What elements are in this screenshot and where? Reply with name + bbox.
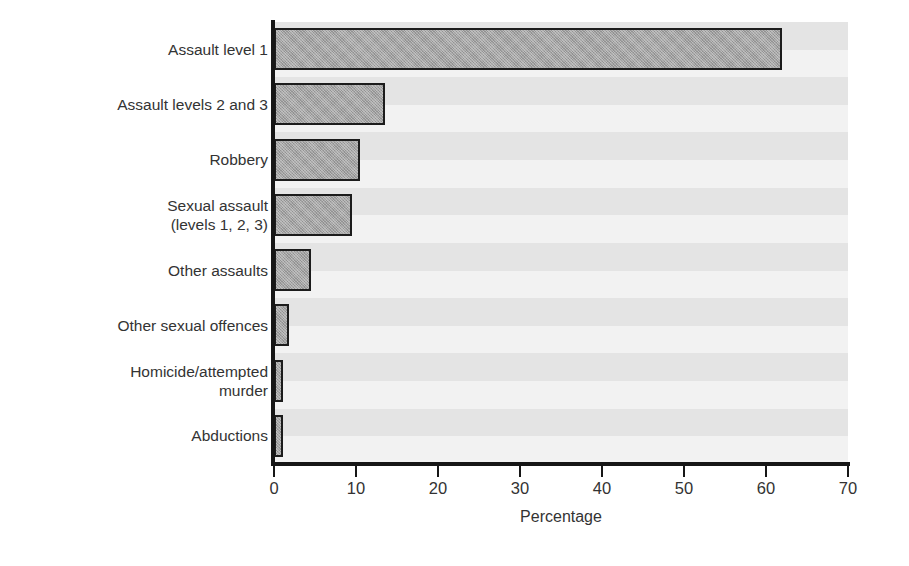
- bar-other-sexual-offences: [274, 304, 289, 346]
- y-axis-spine: [271, 20, 275, 466]
- y-axis-label: Homicide/attempted murder: [6, 362, 268, 400]
- bar-row: [274, 409, 848, 464]
- y-axis-label: Assault levels 2 and 3: [6, 95, 268, 114]
- y-axis-label: Abductions: [6, 426, 268, 445]
- y-axis-label: Other sexual offences: [6, 316, 268, 335]
- bar-chart-figure: Assault level 1 Assault levels 2 and 3 R…: [0, 0, 909, 566]
- x-axis-tick-mark: [355, 466, 358, 477]
- x-axis-tick-mark: [437, 466, 440, 477]
- x-axis-tick-mark: [683, 466, 686, 477]
- plot-area: [274, 22, 848, 464]
- x-axis-tick-mark: [847, 466, 850, 477]
- x-axis-tick-mark: [273, 466, 276, 477]
- x-axis-tick-label: 10: [347, 478, 365, 498]
- bar-abductions: [274, 415, 283, 457]
- x-axis-title: Percentage: [274, 508, 848, 526]
- bar-assault-levels-2-and-3: [274, 83, 385, 125]
- bar-robbery: [274, 139, 360, 181]
- x-axis-tick-label: 70: [839, 478, 857, 498]
- x-axis-tick-mark: [765, 466, 768, 477]
- x-axis-tick-label: 40: [593, 478, 611, 498]
- x-axis-ticks: 010203040506070: [274, 466, 848, 506]
- x-axis-tick-mark: [601, 466, 604, 477]
- bar-row: [274, 243, 848, 298]
- x-axis-tick-label: 30: [511, 478, 529, 498]
- bar-homicide-attempted-murder: [274, 360, 283, 402]
- bar-sexual-assault: [274, 194, 352, 236]
- bar-assault-level-1: [274, 28, 782, 70]
- bar-other-assaults: [274, 249, 311, 291]
- bar-row: [274, 188, 848, 243]
- x-axis-tick-label: 60: [757, 478, 775, 498]
- x-axis-tick-mark: [519, 466, 522, 477]
- bar-row: [274, 22, 848, 77]
- bar-row: [274, 298, 848, 353]
- x-axis-tick-label: 20: [429, 478, 447, 498]
- y-axis-label: Robbery: [6, 150, 268, 169]
- y-axis-label: Sexual assault (levels 1, 2, 3): [6, 196, 268, 234]
- y-axis-label: Other assaults: [6, 261, 268, 280]
- bar-row: [274, 77, 848, 132]
- bar-row: [274, 133, 848, 188]
- x-axis-tick-label: 50: [675, 478, 693, 498]
- y-axis-label: Assault level 1: [6, 40, 268, 59]
- bar-row: [274, 354, 848, 409]
- x-axis-tick-label: 0: [269, 478, 278, 498]
- y-axis-labels: Assault level 1 Assault levels 2 and 3 R…: [0, 22, 268, 464]
